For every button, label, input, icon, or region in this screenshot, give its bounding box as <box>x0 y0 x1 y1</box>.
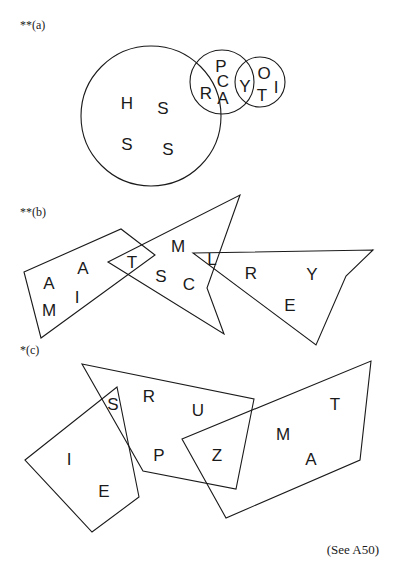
right-quadrilateral <box>193 250 373 345</box>
left-quadrilateral <box>25 387 139 532</box>
letter-o: O <box>257 64 270 83</box>
letter-s: S <box>121 135 132 154</box>
letter-a: A <box>77 259 89 278</box>
letter-h: H <box>121 94 133 113</box>
letter-a: A <box>305 450 317 469</box>
letter-t: T <box>127 253 137 272</box>
letter-i: I <box>274 78 279 97</box>
letter-s: S <box>157 99 168 118</box>
letter-u: U <box>192 401 204 420</box>
panel-c-polygons: SRUPZMTAIE <box>25 361 371 532</box>
letter-r: R <box>200 84 212 103</box>
letter-m: M <box>276 425 290 444</box>
letter-e: E <box>98 482 109 501</box>
large-circle <box>81 46 221 186</box>
panel-a-venn-circles: HSSSRPCAYOTI <box>81 46 285 186</box>
letter-y: Y <box>306 265 317 284</box>
letter-p: P <box>153 446 164 465</box>
diagram-svg: HSSSRPCAYOTI AAMITMSCLRYE SRUPZMTAIE <box>0 0 393 564</box>
letter-c: C <box>183 275 195 294</box>
letter-l: L <box>207 250 216 269</box>
letter-e: E <box>284 296 295 315</box>
letter-m: M <box>42 301 56 320</box>
answer-reference: (See A50) <box>327 542 379 558</box>
letter-m: M <box>171 237 185 256</box>
letter-i: I <box>75 288 80 307</box>
letter-a: A <box>43 274 55 293</box>
letter-a: A <box>217 89 229 108</box>
letter-t: T <box>330 395 340 414</box>
letter-r: R <box>245 264 257 283</box>
letter-r: R <box>143 387 155 406</box>
letter-s: S <box>107 395 118 414</box>
letter-s: S <box>155 267 166 286</box>
letter-z: Z <box>212 446 222 465</box>
middle-quadrilateral <box>82 364 254 489</box>
letter-y: Y <box>239 77 250 96</box>
panel-b-polygons: AAMITMSCLRYE <box>24 195 373 345</box>
letter-s: S <box>162 140 173 159</box>
puzzle-diagram: **(a) **(b) *(c) HSSSRPCAYOTI AAMITMSCLR… <box>0 0 393 564</box>
letter-t: T <box>257 86 267 105</box>
letter-i: I <box>67 450 72 469</box>
